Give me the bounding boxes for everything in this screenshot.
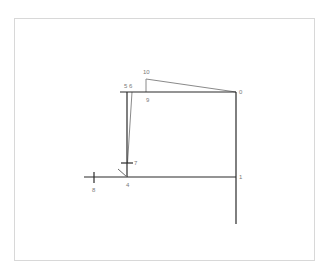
node-label-5-6: 5 6 xyxy=(124,83,133,89)
node-label-0: 0 xyxy=(239,89,243,95)
node-label-8: 8 xyxy=(92,187,96,193)
node-label-7: 7 xyxy=(134,160,138,166)
edge-9-10-0 xyxy=(146,79,236,92)
node-label-9: 9 xyxy=(146,97,150,103)
node-label-10: 10 xyxy=(143,69,150,75)
node-label-1: 1 xyxy=(239,174,243,180)
edge-6-7 xyxy=(128,92,133,163)
edge-4-diagonal xyxy=(118,169,127,177)
node-label-4: 4 xyxy=(126,182,130,188)
diagram-canvas: 10 5 6 9 0 7 1 4 8 xyxy=(0,0,325,270)
